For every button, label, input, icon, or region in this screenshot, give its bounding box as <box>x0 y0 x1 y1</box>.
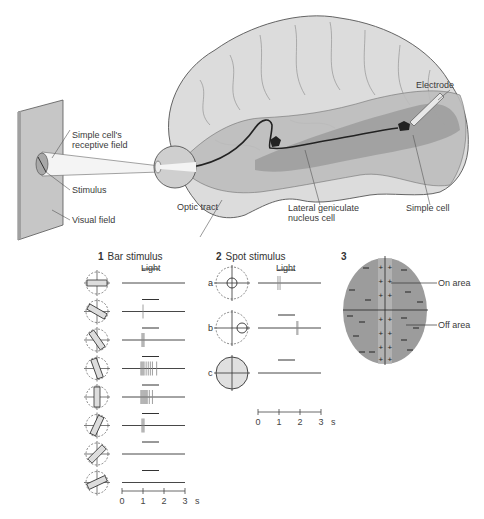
svg-text:+: + <box>388 315 393 324</box>
svg-text:s: s <box>195 496 200 506</box>
svg-text:+: + <box>379 291 384 300</box>
panel2-header: 2Spot stimulus <box>216 251 286 262</box>
svg-text:+: + <box>379 355 384 364</box>
visual-field-label: Visual field <box>72 215 115 225</box>
svg-text:s: s <box>331 417 336 427</box>
lgn-label-line1: Lateral geniculate <box>288 203 359 213</box>
svg-text:1: 1 <box>141 496 146 506</box>
bar-stimulus-row <box>84 299 185 325</box>
spot-stimulus-panel: abc <box>208 265 321 391</box>
bar-stimulus-row <box>84 269 185 296</box>
svg-text:+: + <box>388 329 393 338</box>
spot-stimulus-row: a <box>208 265 321 301</box>
spot-stimulus-row: c <box>208 355 321 391</box>
receptive-field-map: ++++++++++++++ <box>343 256 437 365</box>
bar-stimulus-row <box>84 327 185 353</box>
off-area-label: Off area <box>438 320 470 330</box>
simple-cell-label: Simple cell <box>406 203 450 213</box>
spot-row-label: a <box>208 278 213 288</box>
panel1-light-label: Light <box>141 263 161 273</box>
bar-stimulus-row <box>84 441 185 467</box>
svg-text:3: 3 <box>183 496 188 506</box>
bar-stimulus-row <box>84 356 185 382</box>
svg-text:+: + <box>388 263 393 272</box>
light-cone <box>42 152 160 176</box>
panel2-title: Spot stimulus <box>226 251 286 262</box>
svg-text:+: + <box>388 343 393 352</box>
svg-text:+: + <box>379 263 384 272</box>
panel2-time-axis: 0123s <box>256 409 337 427</box>
electrode-label: Electrode <box>416 80 454 90</box>
receptive-field-label-line1: Simple cell's <box>72 130 122 140</box>
panel1-number: 1 <box>98 251 104 262</box>
spot-stimulus-row: b <box>208 310 321 346</box>
svg-text:0: 0 <box>120 496 125 506</box>
svg-text:+: + <box>379 329 384 338</box>
svg-text:1: 1 <box>277 417 282 427</box>
bar-stimulus-row <box>84 384 185 410</box>
bar-stimulus-row <box>84 413 185 439</box>
svg-text:+: + <box>379 315 384 324</box>
eye-illustration <box>154 146 196 188</box>
bar-stimulus-row <box>84 470 185 496</box>
svg-text:+: + <box>379 277 384 286</box>
panel1-title: Bar stimulus <box>108 251 163 262</box>
svg-text:+: + <box>388 277 393 286</box>
svg-text:3: 3 <box>319 417 324 427</box>
bar-stimulus-panel: 0123s0123s <box>84 269 336 506</box>
svg-text:+: + <box>379 343 384 352</box>
panel1-time-axis: 0123s <box>120 488 201 506</box>
optic-tract-label: Optic tract <box>177 202 218 212</box>
svg-text:+: + <box>388 355 393 364</box>
panel1-header: 1Bar stimulus <box>98 251 163 262</box>
panel2-number: 2 <box>216 251 222 262</box>
spot-row-label: b <box>208 323 213 333</box>
spot-row-label: c <box>208 368 213 378</box>
svg-text:0: 0 <box>256 417 261 427</box>
on-area-label: On area <box>438 278 471 288</box>
brain-illustration <box>169 16 469 218</box>
panel3-number: 3 <box>341 251 347 262</box>
receptive-field-label-line2: receptive field <box>72 140 128 150</box>
lgn-label-line2: nucleus cell <box>288 213 335 223</box>
stimulus-label: Stimulus <box>72 185 107 195</box>
svg-text:+: + <box>388 291 393 300</box>
svg-text:2: 2 <box>162 496 167 506</box>
panel2-light-label: Light <box>276 263 296 273</box>
svg-text:2: 2 <box>298 417 303 427</box>
